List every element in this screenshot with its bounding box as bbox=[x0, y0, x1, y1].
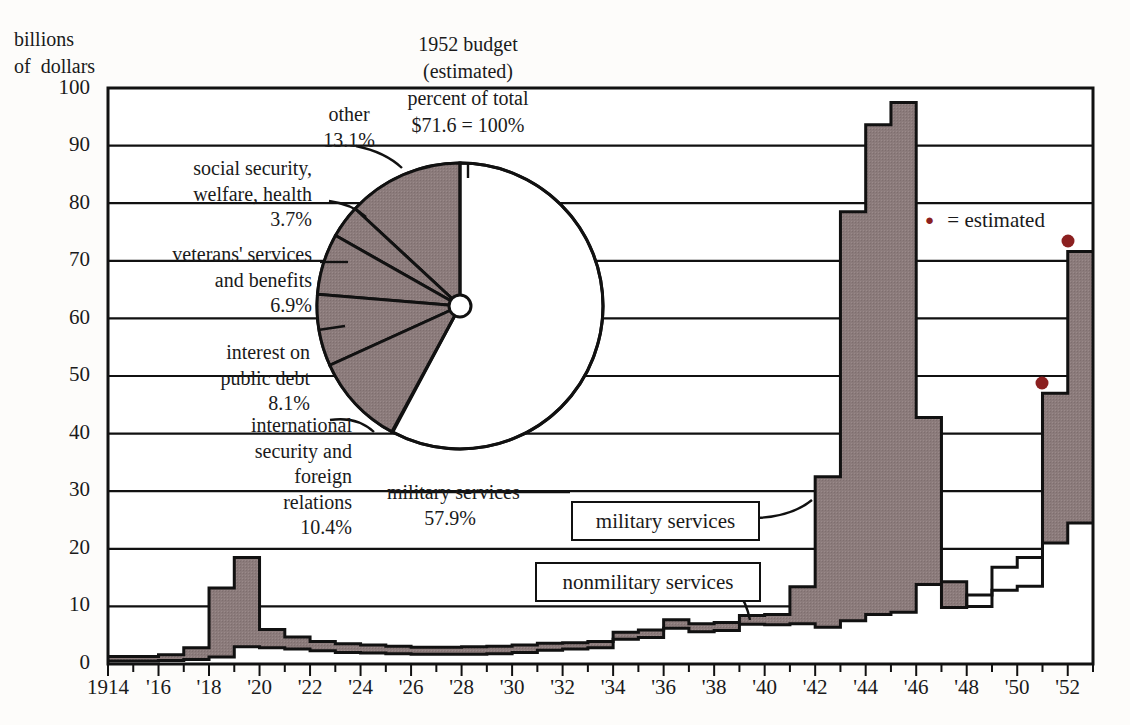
pie-label-veterans: veterans' services and benefits bbox=[100, 242, 312, 293]
pie-label-social-security: social security, welfare, health bbox=[110, 156, 312, 207]
estimated-dot-1952 bbox=[1062, 235, 1075, 248]
x-tick-1952: '52 bbox=[1028, 676, 1108, 700]
legend-estimated: ● = estimated bbox=[925, 208, 1045, 233]
pie-label-military-pct: 57.9% bbox=[380, 506, 520, 532]
pie-label-military: military services bbox=[387, 480, 587, 506]
pie-label-veterans-pct: 6.9% bbox=[100, 293, 312, 319]
pie-label-social-security-pct: 3.7% bbox=[110, 207, 312, 233]
estimated-dot-1951 bbox=[1036, 377, 1049, 390]
pie-label-international-pct: 10.4% bbox=[140, 515, 352, 541]
pie-label-other: other bbox=[290, 102, 408, 128]
callout-nonmilitary-services[interactable]: nonmilitary services bbox=[535, 562, 761, 602]
pie-label-other-pct: 13.1% bbox=[290, 128, 408, 154]
callout-military-services[interactable]: military services bbox=[571, 501, 760, 541]
pie-chart bbox=[317, 163, 603, 449]
callout-military-services-label: military services bbox=[596, 509, 735, 534]
legend-estimated-label: = estimated bbox=[947, 208, 1045, 232]
callout-nonmilitary-services-label: nonmilitary services bbox=[563, 570, 734, 595]
pie-hub bbox=[449, 295, 471, 317]
estimated-dot-icon: ● bbox=[925, 212, 934, 228]
pie-label-interest: interest on public debt bbox=[118, 340, 310, 391]
pie-label-international: international security and foreign relat… bbox=[140, 413, 352, 515]
